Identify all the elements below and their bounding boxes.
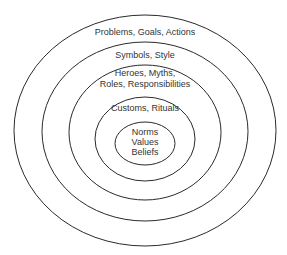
label-symbols-style: Symbols, Style <box>115 50 175 60</box>
label-norms: Norms <box>132 127 159 137</box>
label-values: Values <box>132 137 159 147</box>
label-roles-responsibilities: Roles, Responsibilities <box>100 79 191 89</box>
label-heroes-myths: Heroes, Myths, <box>115 68 176 78</box>
culture-layers-diagram: Problems, Goals, Actions Symbols, Style … <box>0 0 287 255</box>
label-customs-rituals: Customs, Rituals <box>111 103 180 113</box>
label-beliefs: Beliefs <box>131 147 159 157</box>
label-problems-goals-actions: Problems, Goals, Actions <box>95 27 196 37</box>
